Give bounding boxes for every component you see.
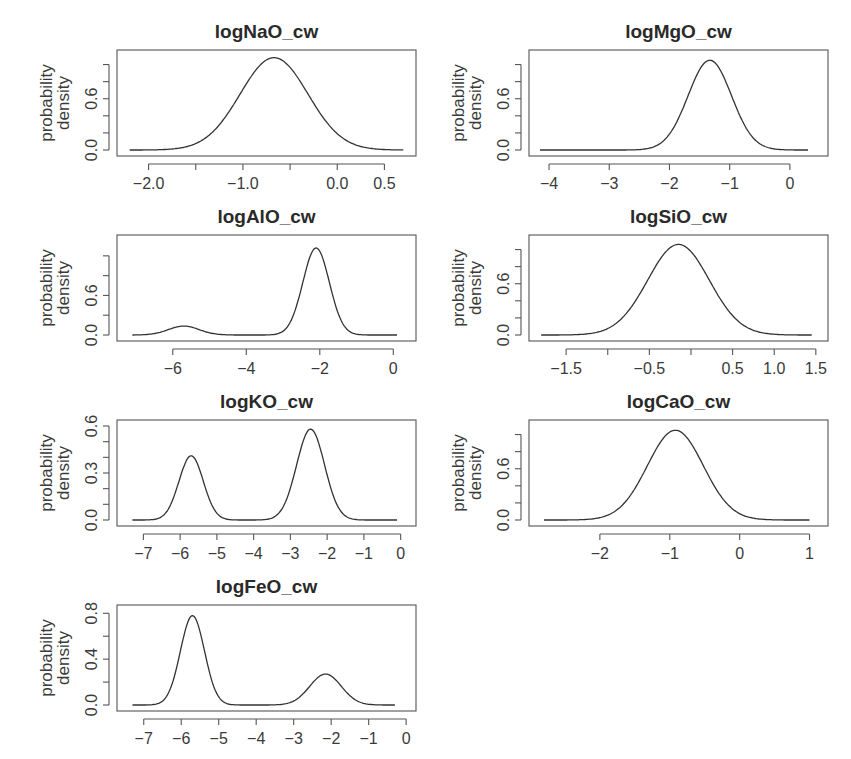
panel-title: logFeO_cw — [216, 576, 318, 597]
panel-title: logMgO_cw — [625, 21, 732, 42]
panel-plot: logMgO_cw0.00.6probabilitydensity−4−3−2−… — [412, 0, 837, 204]
x-axis: −7−6−5−4−3−2−10 — [135, 719, 411, 747]
y-tick-label: 0.0 — [495, 509, 512, 531]
x-tick-label: −2 — [322, 730, 340, 747]
y-tick-label: 0.6 — [495, 273, 512, 295]
y-tick-label: 0.6 — [83, 415, 100, 437]
panel-plot: logKO_cw0.00.30.6probabilitydensity−7−6−… — [0, 370, 425, 574]
y-axis-label: probabilitydensity — [449, 249, 485, 327]
y-tick-label: 0.3 — [83, 462, 100, 484]
y-axis-label: probabilitydensity — [37, 619, 73, 697]
plot-frame — [117, 235, 416, 341]
y-axis-label: probabilitydensity — [449, 434, 485, 512]
panel-title: logCaO_cw — [627, 391, 731, 412]
y-axis: 0.00.6 — [83, 65, 109, 162]
x-axis: −2−101 — [591, 534, 814, 562]
panel-title: logSiO_cw — [630, 206, 727, 227]
density-curve — [544, 430, 810, 520]
y-axis: 0.00.40.8 — [83, 602, 109, 716]
plot-frame — [117, 605, 416, 711]
panel-title: logNaO_cw — [215, 21, 319, 42]
y-axis: 0.00.30.6 — [83, 415, 109, 531]
x-tick-label: 0 — [402, 730, 411, 747]
y-tick-label: 0.0 — [83, 139, 100, 161]
density-curve — [130, 58, 404, 150]
panel-plot: logFeO_cw0.00.40.8probabilitydensity−7−6… — [0, 555, 425, 759]
density-panel-logko-cw: logKO_cw0.00.30.6probabilitydensity−7−6−… — [0, 370, 425, 555]
y-tick-label: 0.6 — [83, 284, 100, 306]
density-curve — [132, 429, 397, 520]
x-tick-label: −1 — [360, 730, 378, 747]
y-tick-label: 0.0 — [83, 324, 100, 346]
plot-frame — [117, 50, 416, 156]
y-tick-label: 0.6 — [495, 458, 512, 480]
plot-frame — [529, 50, 828, 156]
panel-plot: logCaO_cw0.00.6probabilitydensity−2−101 — [412, 370, 837, 574]
panel-plot: logSiO_cw0.00.6probabilitydensity−1.5−0.… — [412, 185, 837, 389]
y-axis: 0.00.6 — [83, 256, 109, 346]
y-tick-label: 0.0 — [83, 509, 100, 531]
y-tick-label: 0.0 — [495, 139, 512, 161]
panel-plot: logAlO_cw0.00.6probabilitydensity−6−4−20 — [0, 185, 425, 389]
density-panel-logcao-cw: logCaO_cw0.00.6probabilitydensity−2−101 — [412, 370, 837, 555]
plot-frame — [529, 235, 828, 341]
density-curve — [540, 60, 808, 150]
x-tick-label: 1 — [805, 545, 814, 562]
y-axis: 0.00.6 — [495, 435, 521, 532]
y-tick-label: 0.6 — [495, 88, 512, 110]
y-tick-label: 0.8 — [83, 602, 100, 624]
panel-plot: logNaO_cw0.00.6probabilitydensity−2.0−1.… — [0, 0, 425, 204]
x-tick-label: −6 — [172, 730, 190, 747]
x-tick-label: −5 — [210, 730, 228, 747]
x-tick-label: −3 — [285, 730, 303, 747]
panel-title: logAlO_cw — [217, 206, 315, 227]
y-tick-label: 0.4 — [83, 648, 100, 670]
x-tick-label: −7 — [135, 730, 153, 747]
density-panel-logalo-cw: logAlO_cw0.00.6probabilitydensity−6−4−20 — [0, 185, 425, 370]
plot-frame — [529, 420, 828, 526]
x-tick-label: 0 — [735, 545, 744, 562]
y-tick-label: 0.0 — [495, 324, 512, 346]
y-tick-label: 0.0 — [83, 694, 100, 716]
x-tick-label: −1 — [661, 545, 679, 562]
y-axis-label: probabilitydensity — [37, 249, 73, 327]
y-axis-label: probabilitydensity — [449, 64, 485, 142]
x-tick-label: −2 — [591, 545, 609, 562]
y-axis: 0.00.6 — [495, 65, 521, 162]
density-curve — [132, 248, 397, 335]
density-panel-logfeo-cw: logFeO_cw0.00.40.8probabilitydensity−7−6… — [0, 555, 425, 740]
y-tick-label: 0.6 — [83, 88, 100, 110]
y-axis: 0.00.6 — [495, 250, 521, 347]
y-axis-label: probabilitydensity — [37, 64, 73, 142]
density-curve — [541, 244, 812, 335]
density-curve — [133, 616, 395, 705]
panel-title: logKO_cw — [220, 391, 313, 412]
density-panel-logmgo-cw: logMgO_cw0.00.6probabilitydensity−4−3−2−… — [412, 0, 837, 185]
plot-frame — [117, 420, 416, 526]
density-panel-logsio-cw: logSiO_cw0.00.6probabilitydensity−1.5−0.… — [412, 185, 837, 370]
x-tick-label: −4 — [247, 730, 265, 747]
y-axis-label: probabilitydensity — [37, 434, 73, 512]
density-panel-lognao-cw: logNaO_cw0.00.6probabilitydensity−2.0−1.… — [0, 0, 425, 185]
